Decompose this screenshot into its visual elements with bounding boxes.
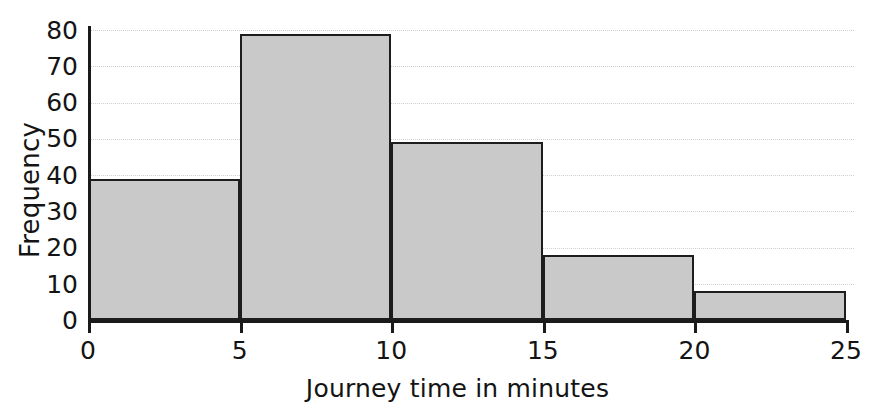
histogram-bar xyxy=(240,34,392,320)
y-tick-label: 10 xyxy=(0,270,78,299)
gridline-60 xyxy=(88,103,854,104)
y-tick-label: 20 xyxy=(0,233,78,262)
y-tick-label: 0 xyxy=(0,306,78,335)
x-tick-0 xyxy=(88,320,91,333)
x-tick-25 xyxy=(846,320,849,333)
x-axis-title-text: Journey time in minutes xyxy=(266,374,609,403)
gridline-50 xyxy=(88,139,854,140)
y-tick-label: 50 xyxy=(0,124,78,153)
y-tick-label: 70 xyxy=(0,52,78,81)
x-tick-label: 15 xyxy=(527,336,559,365)
x-tick-label: 25 xyxy=(830,336,862,365)
histogram-chart: Frequency 0 10 20 30 40 50 60 70 80 xyxy=(0,0,875,413)
y-tick-label: 80 xyxy=(0,16,78,45)
x-tick-20 xyxy=(694,320,697,333)
x-tick-label: 0 xyxy=(80,336,96,365)
y-tick-label: 40 xyxy=(0,161,78,190)
x-axis-line xyxy=(88,320,848,323)
histogram-bar xyxy=(694,291,846,320)
y-tick-label: 60 xyxy=(0,88,78,117)
plot-area xyxy=(88,30,846,320)
gridline-70 xyxy=(88,66,854,67)
x-tick-15 xyxy=(543,320,546,333)
histogram-bar xyxy=(88,179,240,320)
y-tick-label: 30 xyxy=(0,197,78,226)
gridline-80 xyxy=(88,30,854,31)
histogram-bar xyxy=(543,255,695,320)
histogram-bar xyxy=(391,142,543,320)
x-tick-label: 10 xyxy=(375,336,407,365)
x-tick-5 xyxy=(240,320,243,333)
y-axis-line xyxy=(88,26,91,324)
x-tick-10 xyxy=(391,320,394,333)
x-axis-title: Journey time in minutes xyxy=(0,374,875,403)
x-tick-label: 5 xyxy=(232,336,248,365)
x-tick-label: 20 xyxy=(678,336,710,365)
